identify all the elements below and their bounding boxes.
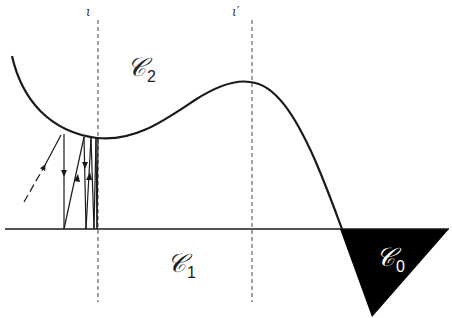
- label-region-c2-symbol: 𝒞: [127, 52, 146, 82]
- label-region-c0: 𝒞0: [376, 244, 404, 270]
- label-region-c1-subscript: 1: [187, 264, 196, 281]
- label-region-c0-symbol: 𝒞: [376, 242, 395, 272]
- label-iota-prime: ι′: [232, 6, 239, 18]
- label-region-c0-subscript: 0: [396, 258, 405, 275]
- label-region-c1: 𝒞1: [167, 250, 195, 276]
- boundary-curve: [12, 56, 342, 229]
- label-region-c1-symbol: 𝒞: [167, 248, 186, 278]
- trajectory: [24, 134, 98, 229]
- label-region-c2: 𝒞2: [127, 54, 155, 80]
- label-iota: ι: [86, 6, 91, 18]
- label-region-c2-subscript: 2: [147, 68, 156, 85]
